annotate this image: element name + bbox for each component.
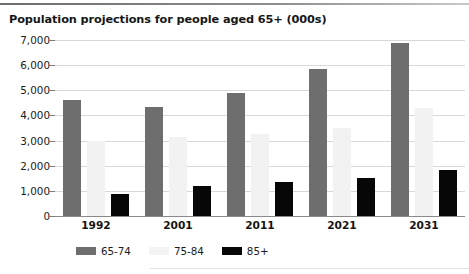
bar-65-74-2011 xyxy=(227,93,245,216)
x-axis-tick-label: 1992 xyxy=(81,219,111,231)
bar-85plus-1992 xyxy=(111,194,129,216)
bar-85plus-2001 xyxy=(193,186,211,216)
y-axis-tick-mark xyxy=(49,141,55,142)
legend-swatch-icon xyxy=(149,247,169,255)
bar-75-84-2031 xyxy=(415,108,433,216)
bar-75-84-2001 xyxy=(169,137,187,216)
y-axis-tick-mark xyxy=(49,90,55,91)
bar-85plus-2031 xyxy=(439,170,457,217)
legend-swatch-icon xyxy=(222,247,242,255)
legend-label: 85+ xyxy=(247,245,269,257)
y-axis-tick-label: 3,000 xyxy=(20,135,50,147)
x-axis-labels: 19922001201120212031 xyxy=(55,219,465,235)
y-axis-tick-mark xyxy=(49,40,55,41)
gridline xyxy=(55,40,465,41)
y-axis-tick-mark xyxy=(49,115,55,116)
bar-75-84-2011 xyxy=(251,134,269,216)
x-axis-tick-label: 2011 xyxy=(245,219,275,231)
bar-65-74-2021 xyxy=(309,69,327,216)
y-axis-tick-label: 6,000 xyxy=(20,59,50,71)
bottom-divider-rule xyxy=(150,268,469,269)
legend-label: 75-84 xyxy=(174,245,204,257)
chart-plot-area xyxy=(55,40,465,216)
bar-75-84-2021 xyxy=(333,128,351,216)
legend-item-75-84: 75-84 xyxy=(149,245,204,257)
bar-75-84-1992 xyxy=(87,141,105,216)
bar-65-74-2001 xyxy=(145,107,163,216)
bar-65-74-1992 xyxy=(63,100,81,216)
bar-65-74-2031 xyxy=(391,43,409,216)
top-divider-rule xyxy=(0,3,469,5)
legend-label: 65-74 xyxy=(101,245,131,257)
x-axis-tick-label: 2031 xyxy=(409,219,439,231)
y-axis-tick-mark xyxy=(49,166,55,167)
y-axis-tick-mark xyxy=(49,65,55,66)
y-axis-tick-label: 7,000 xyxy=(20,34,50,46)
x-axis-tick-label: 2021 xyxy=(327,219,357,231)
bar-85plus-2021 xyxy=(357,178,375,216)
y-axis-tick-mark xyxy=(49,191,55,192)
legend-item-65-74: 65-74 xyxy=(76,245,131,257)
y-axis-labels: 01,0002,0003,0004,0005,0006,0007,000 xyxy=(0,40,50,216)
legend-swatch-icon xyxy=(76,247,96,255)
chart-title: Population projections for people aged 6… xyxy=(9,13,327,26)
y-axis-tick-label: 1,000 xyxy=(20,185,50,197)
y-axis-tick-label: 2,000 xyxy=(20,160,50,172)
chart-legend: 65-7475-8485+ xyxy=(76,245,269,257)
x-axis-baseline xyxy=(55,216,465,217)
legend-item-85plus: 85+ xyxy=(222,245,269,257)
y-axis-tick-label: 4,000 xyxy=(20,109,50,121)
y-axis-tick-mark xyxy=(49,216,55,217)
bar-85plus-2011 xyxy=(275,182,293,216)
y-axis-tick-label: 5,000 xyxy=(20,84,50,96)
x-axis-tick-label: 2001 xyxy=(163,219,193,231)
